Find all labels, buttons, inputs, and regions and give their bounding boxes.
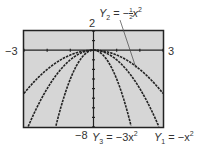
ymax-label: 2	[89, 18, 95, 29]
xmax-label: 3	[168, 46, 174, 57]
y2-equation-label: Y2 = −12x2	[99, 6, 142, 21]
ymin-label: −8	[75, 130, 88, 141]
xmin-label: −3	[5, 46, 18, 57]
graph-screen	[0, 0, 204, 149]
y3-equation-label: Y3 = −3x2	[92, 130, 138, 145]
y1-equation-label: Y1 = −x2	[154, 130, 194, 145]
